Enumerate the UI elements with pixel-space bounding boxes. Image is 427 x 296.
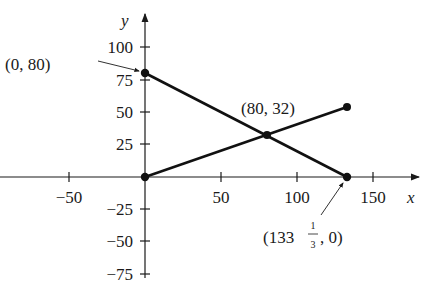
- y-tick-labels: 100 75 50 25 −25 −50 −75: [106, 38, 133, 284]
- annotation-133-0: (133 1 3 , 0): [263, 220, 343, 250]
- svg-text:25: 25: [116, 135, 133, 154]
- chart: −50 50 100 150 100 75 50 25 −25 −50 −75 …: [0, 0, 427, 296]
- x-axis-label: x: [406, 188, 415, 207]
- decreasing-line: [145, 73, 347, 177]
- svg-text:(133: (133: [263, 228, 294, 247]
- svg-text:1: 1: [311, 220, 316, 231]
- annotation-arrow-133-0: [321, 183, 343, 215]
- svg-text:−25: −25: [106, 200, 133, 219]
- svg-text:−50: −50: [56, 188, 83, 207]
- svg-text:150: 150: [360, 188, 386, 207]
- svg-text:−50: −50: [106, 232, 133, 251]
- svg-text:100: 100: [284, 188, 310, 207]
- svg-text:, 0): , 0): [320, 228, 343, 247]
- svg-text:100: 100: [108, 38, 134, 57]
- annotation-0-80: (0, 80): [5, 55, 50, 74]
- annotation-80-32: (80, 32): [241, 99, 295, 118]
- y-axis-label: y: [119, 11, 129, 30]
- svg-text:−75: −75: [106, 265, 133, 284]
- svg-text:50: 50: [213, 188, 230, 207]
- svg-text:50: 50: [116, 103, 133, 122]
- svg-text:75: 75: [116, 71, 133, 90]
- annotation-arrow-0-80: [98, 61, 139, 71]
- x-tick-labels: −50 50 100 150: [56, 188, 386, 207]
- svg-text:3: 3: [311, 239, 316, 250]
